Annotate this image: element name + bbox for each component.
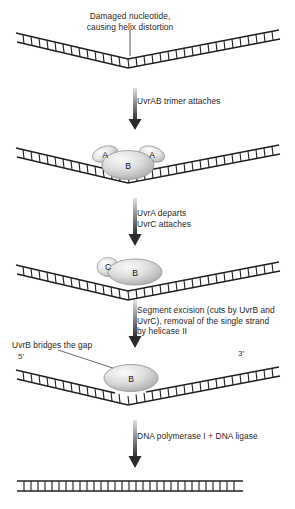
- arrow-label-uvrc: UvrA departsUvrC attaches: [137, 208, 191, 229]
- arrow-label-uvrab: UvrAB trimer attaches: [137, 96, 221, 107]
- arrow-dna-polymerase: [129, 420, 142, 468]
- arrow-label-polymerase: DNA polymerase I + DNA ligase: [137, 431, 258, 442]
- arrow-label-excision-line1: Segment excision (cuts by UvrB and: [137, 305, 275, 315]
- dna-duplex-damaged: [16, 30, 280, 68]
- damaged-nucleotide-line1: Damaged nucleotide,: [90, 11, 171, 21]
- damaged-nucleotide-caption: Damaged nucleotide,causing helix distort…: [62, 11, 198, 32]
- arrow-label-excision-line3: by helicase II: [137, 326, 187, 336]
- damaged-nucleotide-line2: causing helix distortion: [87, 22, 174, 32]
- arrow-label-excision: Segment excision (cuts by UvrB andUvrC),…: [137, 305, 275, 337]
- three-prime-label: 3′: [238, 349, 244, 358]
- arrow-label-uvrab-line1: UvrAB trimer attaches: [137, 96, 221, 106]
- dna-duplex-repaired: [17, 481, 243, 491]
- ner-diagram: Damaged nucleotide,causing helix distort…: [0, 0, 295, 509]
- arrow-label-excision-line2: UvrC), removal of the single strand: [137, 316, 269, 326]
- arrow-label-uvrc-line2: UvrC attaches: [137, 219, 191, 229]
- panel-gap-bridged: [16, 350, 280, 405]
- uvrb-trimer-blob: [102, 151, 154, 180]
- uvrb-blob-with-c: [108, 259, 162, 285]
- panel-uvrbc-bound: [16, 258, 280, 301]
- uvrb-bridges-gap-caption: UvrB bridges the gap: [12, 340, 92, 351]
- arrow-label-uvrc-line1: UvrA departs: [137, 208, 186, 218]
- uvrb-bridging-blob: [104, 365, 158, 392]
- arrow-label-polymerase-line1: DNA polymerase I + DNA ligase: [137, 431, 258, 441]
- panel-uvrab-bound: [16, 143, 280, 183]
- arrow-uvrab-attaches: [129, 88, 142, 130]
- five-prime-label: 5′: [18, 352, 24, 361]
- panel-damaged-dna: [16, 30, 280, 68]
- panel-repaired-dna: [17, 481, 243, 491]
